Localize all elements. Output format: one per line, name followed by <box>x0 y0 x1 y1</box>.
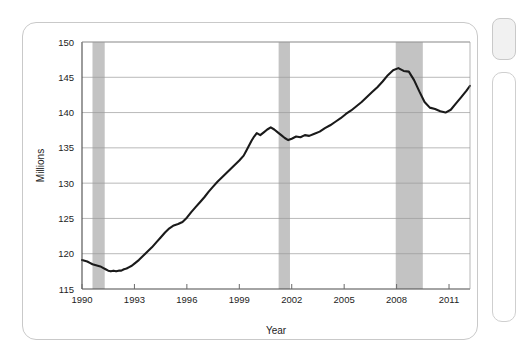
x-tick-label-2011: 2011 <box>439 294 459 305</box>
x-tick-label-1996: 1996 <box>176 294 197 305</box>
recession-2007-2009 <box>396 42 423 289</box>
y-axis-title: Millions <box>35 149 46 182</box>
y-tick-label-120: 120 <box>58 248 74 259</box>
y-tick-label-115: 115 <box>59 284 74 295</box>
y-tick-label-150: 150 <box>58 37 74 48</box>
x-tick-label-2008: 2008 <box>386 294 407 305</box>
x-axis-title: Year <box>266 325 287 336</box>
x-tick-label-2005: 2005 <box>334 294 355 305</box>
x-tick-label-1999: 1999 <box>229 294 250 305</box>
y-tick-label-140: 140 <box>58 107 74 118</box>
y-tick-label-145: 145 <box>58 72 74 83</box>
x-tick-label-2002: 2002 <box>281 294 302 305</box>
recession-1990-1991 <box>92 42 104 289</box>
x-tick-label-1990: 1990 <box>71 294 92 305</box>
y-tick-label-130: 130 <box>58 178 74 189</box>
y-tick-label-125: 125 <box>58 213 74 224</box>
y-tick-label-135: 135 <box>58 142 74 153</box>
recession-2001 <box>279 42 290 289</box>
x-tick-label-1993: 1993 <box>124 294 145 305</box>
recession-bands-layer <box>92 42 422 289</box>
